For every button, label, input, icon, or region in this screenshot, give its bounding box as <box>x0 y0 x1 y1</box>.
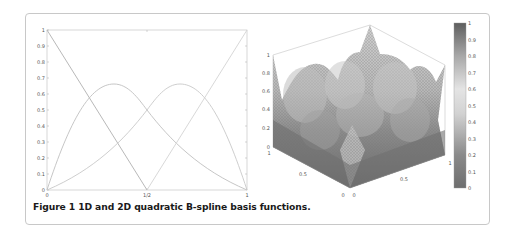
plot-1d: 0 0.1 0.2 0.3 0.4 0.5 0.6 0.7 0.8 0.9 1 … <box>37 27 249 198</box>
y-tick-label: 0.9 <box>37 43 45 49</box>
z-tick-label: 1 <box>267 52 270 58</box>
y-tick-label: 0.5 <box>37 107 45 113</box>
curve-n2 <box>47 84 247 190</box>
z-tick-labels: 0 0.2 0.4 0.6 0.8 1 <box>262 52 270 150</box>
colorbar-gradient <box>454 23 466 188</box>
x-tick-label-3d: 0 <box>352 192 355 198</box>
basis-curves-1d <box>47 30 247 190</box>
y-tick-labels-1d: 0 0.1 0.2 0.3 0.4 0.5 0.6 0.7 0.8 0.9 1 <box>37 27 45 193</box>
colorbar-tick-label: 0 <box>468 185 471 191</box>
colorbar-tick-label: 0.9 <box>468 37 476 43</box>
figure-caption: Figure 1 1D and 2D quadratic B-spline ba… <box>33 201 311 212</box>
y-tick-label: 0.7 <box>37 75 45 81</box>
z-tick-label: 0.8 <box>262 70 270 76</box>
z-tick-label: 0.2 <box>262 125 270 131</box>
colorbar-tick-labels: 0 0.1 0.2 0.3 0.4 0.5 0.6 0.7 0.8 0.9 1 <box>468 20 476 191</box>
y-tick-label-3d: 1 <box>267 150 270 156</box>
colorbar-tick-label: 0.3 <box>468 136 476 142</box>
y-tick-label-3d: 0 <box>341 192 344 198</box>
curve-n4 <box>147 30 247 190</box>
z-tick-label: 0.6 <box>262 88 270 94</box>
x-tick-label: 1 <box>245 192 248 198</box>
plot-2d-surface: 0 0.2 0.4 0.6 0.8 1 1 0.5 0 0 0.5 1 <box>262 25 452 198</box>
y-tick-label: 1 <box>42 27 45 33</box>
y-tick-label: 0.8 <box>37 59 45 65</box>
colorbar-tick-label: 0.6 <box>468 86 476 92</box>
y-tick-label-3d: 0.5 <box>299 171 307 177</box>
x-tick-label: 1/2 <box>143 192 151 198</box>
z-tick-label: 0.4 <box>262 106 270 112</box>
y-tick-label: 0.6 <box>37 91 45 97</box>
colorbar-tick-label: 0.2 <box>468 152 476 158</box>
y-tick-label: 0.2 <box>37 155 45 161</box>
y-tick-label: 0.1 <box>37 171 45 177</box>
x-tick-label: 0 <box>45 192 48 198</box>
colorbar-tick-label: 0.8 <box>468 53 476 59</box>
colorbar-tick-label: 0.7 <box>468 70 476 76</box>
x-tick-labels-1d: 0 1/2 1 <box>45 192 248 198</box>
y-tick-label: 0.4 <box>37 123 45 129</box>
colorbar: 0 0.1 0.2 0.3 0.4 0.5 0.6 0.7 0.8 0.9 1 <box>454 20 476 191</box>
colorbar-tick-label: 1 <box>468 20 471 26</box>
x-tick-label-3d: 1 <box>448 160 451 166</box>
x-tick-label-3d: 0.5 <box>400 176 408 182</box>
colorbar-tick-label: 0.5 <box>468 103 476 109</box>
surface-mesh <box>273 25 445 188</box>
curve-n3 <box>47 84 247 190</box>
y-tick-label: 0.3 <box>37 139 45 145</box>
colorbar-tick-label: 0.1 <box>468 169 476 175</box>
curve-n1 <box>47 30 147 190</box>
colorbar-tick-label: 0.4 <box>468 119 476 125</box>
